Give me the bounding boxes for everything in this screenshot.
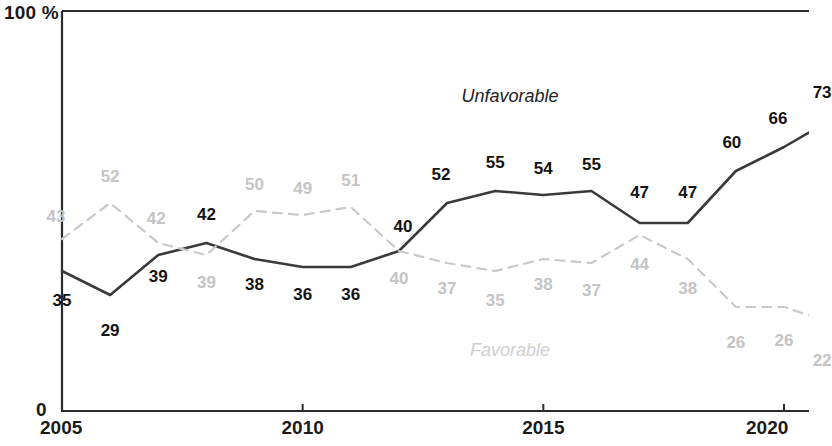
point-label-favorable-2013: 37 xyxy=(438,279,457,299)
point-label-unfavorable-2015: 54 xyxy=(534,159,553,179)
point-label-favorable-2016: 37 xyxy=(582,281,601,301)
point-label-unfavorable-2010: 36 xyxy=(293,285,312,305)
point-label-unfavorable-2017: 47 xyxy=(630,183,649,203)
point-label-favorable-2008: 39 xyxy=(197,273,216,293)
y-axis-max-label: 100 % xyxy=(4,2,59,24)
x-tick-label-2020: 2020 xyxy=(746,417,788,439)
point-label-unfavorable-2011: 36 xyxy=(341,285,360,305)
point-label-unfavorable-2005: 35 xyxy=(53,291,72,311)
point-label-favorable-2019: 26 xyxy=(726,333,745,353)
point-label-unfavorable-2009: 38 xyxy=(245,275,264,295)
point-label-favorable-2020: 26 xyxy=(775,331,794,351)
point-label-favorable-2010: 49 xyxy=(293,179,312,199)
point-label-unfavorable-2018: 47 xyxy=(678,183,697,203)
point-label-unfavorable-2013: 52 xyxy=(432,165,451,185)
x-tick-label-2015: 2015 xyxy=(522,417,564,439)
series-label-unfavorable: Unfavorable xyxy=(461,86,558,107)
chart-axes xyxy=(62,11,809,411)
point-label-favorable-2014: 35 xyxy=(486,291,505,311)
point-label-favorable-2021: 22 xyxy=(813,351,832,371)
point-label-unfavorable-2008: 42 xyxy=(197,205,216,225)
x-tick-label-2005: 2005 xyxy=(40,417,82,439)
point-label-favorable-2007: 42 xyxy=(147,209,166,229)
point-label-unfavorable-2012: 40 xyxy=(393,217,412,237)
point-label-favorable-2011: 51 xyxy=(341,171,360,191)
point-label-unfavorable-2014: 55 xyxy=(486,153,505,173)
point-label-unfavorable-2006: 29 xyxy=(101,321,120,341)
point-label-favorable-2012: 40 xyxy=(389,269,408,289)
point-label-favorable-2018: 38 xyxy=(678,279,697,299)
point-label-favorable-2009: 50 xyxy=(245,175,264,195)
point-label-unfavorable-2007: 39 xyxy=(149,267,168,287)
series-label-favorable: Favorable xyxy=(470,340,550,361)
x-tick-label-2010: 2010 xyxy=(282,417,324,439)
series-line-favorable xyxy=(62,203,809,323)
series-line-unfavorable xyxy=(62,119,809,295)
point-label-favorable-2017: 44 xyxy=(630,255,649,275)
point-label-favorable-2006: 52 xyxy=(101,167,120,187)
point-label-favorable-2015: 38 xyxy=(534,275,553,295)
point-label-unfavorable-2021: 73 xyxy=(813,83,832,103)
point-label-unfavorable-2020: 66 xyxy=(769,109,788,129)
point-label-unfavorable-2016: 55 xyxy=(582,155,601,175)
point-label-favorable-2005: 43 xyxy=(47,207,66,227)
point-label-unfavorable-2019: 60 xyxy=(722,133,741,153)
